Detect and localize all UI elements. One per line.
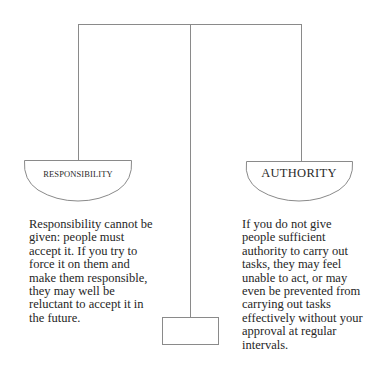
authority-description: If you do not give people sufficient aut…	[242, 218, 389, 352]
description-line: Responsibility cannot be	[29, 218, 169, 231]
scale-base	[163, 318, 219, 345]
description-line: they may well be	[29, 285, 169, 298]
authority-label: AUTHORITY	[246, 166, 352, 181]
description-line: If you do not give	[242, 218, 389, 231]
description-line: force it on them and	[29, 258, 169, 271]
description-line: unable to act, or may	[242, 272, 389, 285]
description-line: given: people must	[29, 231, 169, 244]
description-line: intervals.	[242, 339, 389, 352]
description-line: approval at regular	[242, 325, 389, 338]
description-line: the future.	[29, 312, 169, 325]
responsibility-description: Responsibility cannot be given: people m…	[29, 218, 169, 325]
description-line: accept it. If you try to	[29, 245, 169, 258]
description-line: even be prevented from	[242, 285, 389, 298]
description-line: authority to carry out	[242, 245, 389, 258]
description-line: effectively without your	[242, 312, 389, 325]
description-line: reluctant to accept it in	[29, 298, 169, 311]
description-line: make them responsible,	[29, 272, 169, 285]
description-line: people sufficient	[242, 231, 389, 244]
description-line: tasks, they may feel	[242, 258, 389, 271]
responsibility-label: RESPONSIBILITY	[24, 169, 132, 179]
left-pan	[24, 161, 131, 202]
description-line: carrying out tasks	[242, 298, 389, 311]
